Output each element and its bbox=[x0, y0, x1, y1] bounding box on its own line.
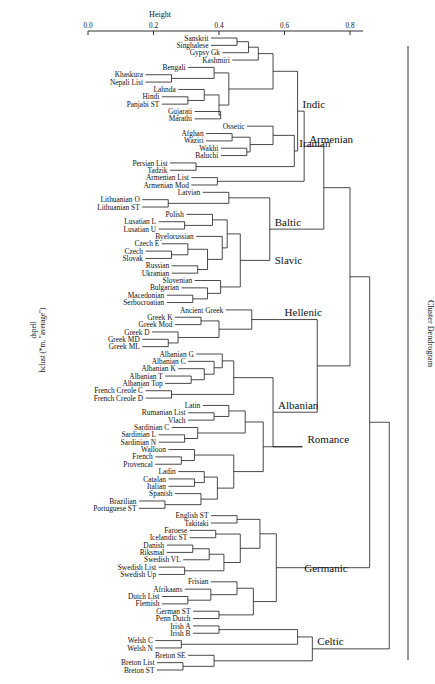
leaf-label: Panjabi ST bbox=[127, 100, 160, 109]
axis-tick-label: 0.2 bbox=[149, 22, 158, 30]
leaf-label: Ossetic bbox=[223, 122, 245, 131]
axis-title: Height bbox=[149, 10, 172, 19]
axis-tick-label: 0.4 bbox=[215, 22, 224, 30]
leaf-label: Vlach bbox=[168, 416, 186, 425]
leaf-label: Lithuanian ST bbox=[97, 203, 140, 212]
y-axis-label-line1: dspell bbox=[30, 321, 38, 338]
leaf-label: Walloon bbox=[141, 445, 166, 454]
height-axis: 0.00.20.40.60.8 bbox=[84, 22, 364, 35]
leaf-label: Spanish bbox=[149, 489, 173, 498]
group-label: Romance bbox=[308, 433, 350, 445]
leaf-label: Irish B bbox=[170, 629, 190, 638]
leaf-label: Lusatian U bbox=[123, 225, 156, 234]
leaf-label: Frisian bbox=[188, 577, 209, 586]
leaf-label: Swedish Up bbox=[120, 570, 156, 579]
leaf-label: Welsh N bbox=[127, 644, 153, 653]
axis-tick-label: 0.0 bbox=[84, 22, 93, 30]
group-label: Germanic bbox=[304, 562, 347, 574]
leaf-label: Ladin bbox=[159, 467, 177, 476]
leaf-label: Albanian G bbox=[159, 350, 194, 359]
leaf-label: Lahnda bbox=[154, 85, 177, 94]
leaf-label: Baluchi bbox=[195, 151, 218, 160]
axis-tick-label: 0.8 bbox=[346, 22, 355, 30]
cluster-dendrogram-title: Cluster Dendrogram bbox=[426, 300, 435, 368]
leaf-label: Greek ML bbox=[109, 342, 140, 351]
leaf-label: Marathi bbox=[169, 114, 192, 123]
leaf-label: Polish bbox=[165, 210, 184, 219]
leaf-label: Breton ST bbox=[124, 666, 155, 675]
y-axis-label-line2: hclust (*m, "average") bbox=[39, 307, 47, 372]
leaf-label: Serbocroatian bbox=[123, 298, 164, 307]
group-labels: IranianIndicArmenianSlavicBalticHellenic… bbox=[275, 98, 354, 648]
leaf-label: Latin bbox=[185, 401, 201, 410]
leaf-label: Takitaki bbox=[184, 519, 208, 528]
leaf-label: Afrikaans bbox=[153, 585, 182, 594]
group-label: Celtic bbox=[317, 635, 343, 647]
leaf-label: Bengali bbox=[163, 63, 186, 72]
leaf-label: French Creole D bbox=[94, 394, 144, 403]
group-label: Slavic bbox=[275, 254, 303, 266]
leaf-label: Portuguese ST bbox=[93, 504, 137, 513]
leaf-label: Byelorussian bbox=[155, 232, 194, 241]
leaf-label: Latvian bbox=[178, 188, 201, 197]
leaf-label: Greek D bbox=[124, 328, 150, 337]
leaf-label: Ancient Greek bbox=[180, 306, 224, 315]
leaf-label: Provencal bbox=[123, 460, 153, 469]
leaf-label: Slovenian bbox=[163, 276, 193, 285]
group-label: Albanian bbox=[278, 399, 319, 411]
group-label: Baltic bbox=[275, 216, 301, 228]
group-label: Indic bbox=[303, 98, 326, 110]
leaf-label: Nepali List bbox=[110, 78, 144, 87]
leaf-label: Breton SE bbox=[155, 651, 186, 660]
axis-tick-label: 0.6 bbox=[280, 22, 289, 30]
dendrogram-canvas: 0.00.20.40.60.8 Height SanskritSinghales… bbox=[0, 0, 435, 684]
group-label: Armenian bbox=[309, 133, 353, 145]
dendrogram-figure: 0.00.20.40.60.8 Height SanskritSinghales… bbox=[0, 0, 435, 684]
leaf-label: Sardinian C bbox=[134, 423, 169, 432]
leaf-label: Slovak bbox=[122, 254, 143, 263]
leaf-label: Kashmiri bbox=[202, 56, 230, 65]
group-label: Hellenic bbox=[285, 306, 322, 318]
